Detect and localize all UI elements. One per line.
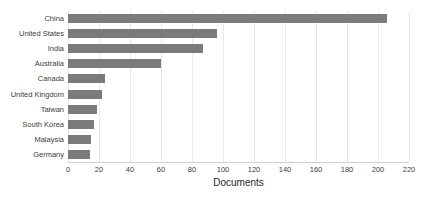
x-tick-label: 120 — [248, 164, 261, 176]
x-tick-label: 200 — [372, 164, 385, 176]
category-label: United States — [0, 26, 64, 41]
category-label: Malaysia — [0, 132, 64, 147]
x-tick-label: 0 — [66, 164, 70, 176]
bar-row — [68, 41, 203, 56]
bar — [68, 90, 102, 99]
category-label: United Kingdom — [0, 87, 64, 102]
bar — [68, 105, 97, 114]
category-label: China — [0, 11, 64, 26]
plot-area — [68, 11, 409, 162]
category-label: Taiwan — [0, 102, 64, 117]
category-label: Canada — [0, 71, 64, 86]
category-label: South Korea — [0, 117, 64, 132]
category-label: India — [0, 41, 64, 56]
bar — [68, 14, 387, 23]
bar-row — [68, 147, 90, 162]
x-tick-label: 80 — [188, 164, 196, 176]
gridline — [409, 11, 410, 162]
bar — [68, 44, 203, 53]
bar-row — [68, 102, 97, 117]
category-axis-labels: ChinaUnited StatesIndiaAustraliaCanadaUn… — [0, 11, 64, 162]
bar — [68, 59, 161, 68]
bar-row — [68, 132, 91, 147]
x-tick-label: 40 — [126, 164, 134, 176]
bar-row — [68, 11, 387, 26]
x-tick-label: 20 — [95, 164, 103, 176]
x-axis-line — [68, 162, 409, 163]
x-tick-label: 100 — [217, 164, 230, 176]
bar — [68, 29, 217, 38]
bar-row — [68, 56, 161, 71]
bar-series — [68, 11, 409, 162]
bar-row — [68, 117, 94, 132]
x-tick-label: 60 — [157, 164, 165, 176]
category-label: Australia — [0, 56, 64, 71]
x-tick-label: 220 — [403, 164, 416, 176]
bar-row — [68, 26, 217, 41]
x-axis-title: Documents — [68, 177, 409, 188]
x-axis-tick-labels: 020406080100120140160180200220 — [0, 164, 430, 176]
x-tick-label: 160 — [310, 164, 323, 176]
bar-row — [68, 87, 102, 102]
bar — [68, 150, 90, 159]
bar — [68, 74, 105, 83]
category-label: Germany — [0, 147, 64, 162]
bar — [68, 135, 91, 144]
x-tick-label: 180 — [341, 164, 354, 176]
bar — [68, 120, 94, 129]
documents-by-country-bar-chart: ChinaUnited StatesIndiaAustraliaCanadaUn… — [0, 0, 430, 211]
x-tick-label: 140 — [279, 164, 292, 176]
bar-row — [68, 71, 105, 86]
